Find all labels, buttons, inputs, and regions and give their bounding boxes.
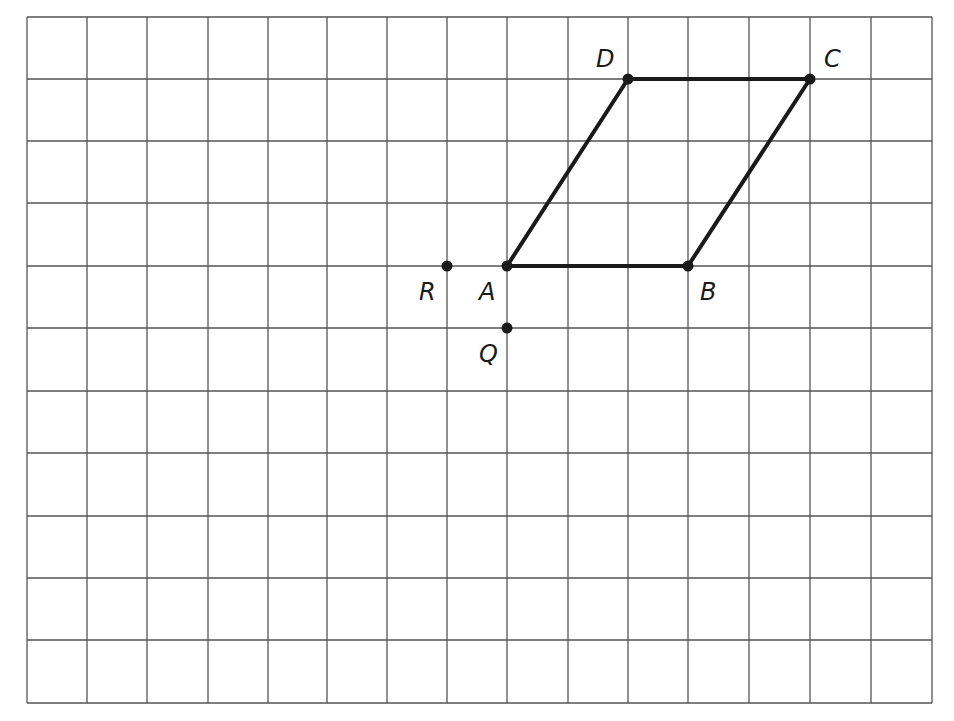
point-label-c: C	[824, 45, 841, 73]
point-label-b: B	[700, 278, 716, 306]
parallelogram-abcd	[507, 79, 810, 266]
point-r	[442, 261, 453, 272]
point-c	[805, 74, 816, 85]
point-label-a: A	[477, 278, 495, 306]
point-d	[623, 74, 634, 85]
point-label-r: R	[419, 278, 436, 306]
point-q	[502, 323, 513, 334]
grid-diagram: ABCDRQ	[0, 0, 954, 721]
point-b	[683, 261, 694, 272]
point-label-d: D	[596, 45, 614, 73]
point-a	[502, 261, 513, 272]
point-label-q: Q	[479, 340, 498, 368]
parallelogram-outline	[507, 79, 810, 266]
points: ABCDRQ	[419, 45, 841, 368]
